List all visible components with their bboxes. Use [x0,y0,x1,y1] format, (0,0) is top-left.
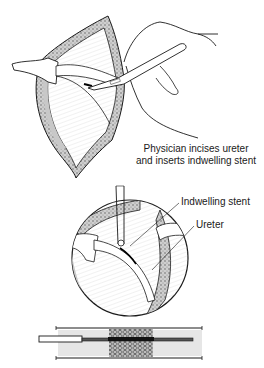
illustration-svg [0,0,264,368]
stent-cross-section [39,326,202,360]
caption-line-2: and inserts indwelling stent [128,155,264,167]
retractor [12,58,58,84]
caption-line-1: Physician incises ureter [128,143,264,155]
label-indwelling-stent: Indwelling stent [181,196,250,208]
surgical-illustration: Physician incises ureter and inserts ind… [0,0,264,368]
magnified-view [72,186,194,316]
stent-mesh [109,329,153,357]
label-ureter: Ureter [196,219,224,231]
pusher-catheter [39,336,82,342]
figure-caption: Physician incises ureter and inserts ind… [128,143,264,167]
